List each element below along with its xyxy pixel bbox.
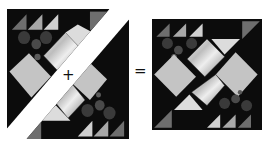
equals-sign: = (134, 64, 147, 79)
plus-sign: + (62, 68, 75, 83)
split-quilt-block: + (7, 9, 129, 139)
assembled-quilt-block (152, 19, 262, 130)
assembled-block-graphic (152, 19, 262, 130)
